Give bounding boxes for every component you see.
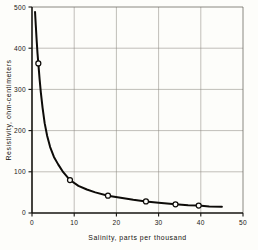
chart-figure: 0 100 200 300 400 500 0 10 20 30 40 50 S… <box>0 0 258 250</box>
y-tick-label: 300 <box>14 86 26 93</box>
y-axis-title: Resistivity, ohm-centimeters <box>5 59 13 160</box>
y-tick-label: 200 <box>14 127 26 134</box>
resistivity-salinity-chart: 0 100 200 300 400 500 0 10 20 30 40 50 S… <box>0 0 258 250</box>
y-tick-label: 400 <box>14 45 26 52</box>
data-point-marker <box>36 61 41 66</box>
x-tick-label: 10 <box>70 219 78 226</box>
data-point-marker <box>67 178 72 183</box>
y-tick-label: 500 <box>14 4 26 11</box>
data-point-marker <box>196 203 201 208</box>
y-tick-label: 100 <box>14 168 26 175</box>
x-axis-title: Salinity, parts per thousand <box>88 234 186 242</box>
x-tick-label: 0 <box>30 219 34 226</box>
x-tick-label: 20 <box>112 219 120 226</box>
x-tick-label: 40 <box>197 219 205 226</box>
data-point-marker <box>105 193 110 198</box>
x-tick-label: 30 <box>155 219 163 226</box>
x-tick-label: 50 <box>239 219 247 226</box>
data-point-marker <box>173 202 178 207</box>
data-point-marker <box>143 199 148 204</box>
y-tick-label: 0 <box>22 209 26 216</box>
